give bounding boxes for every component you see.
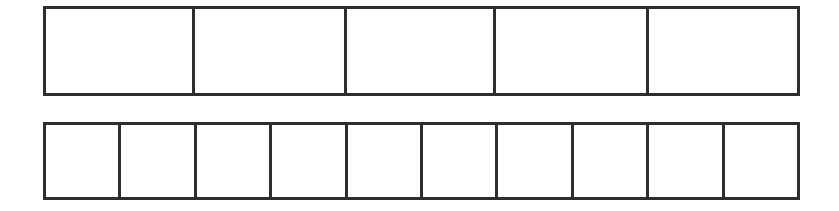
strip-bottom-cell-1[interactable] — [46, 125, 121, 197]
fraction-strip-bottom — [43, 122, 800, 200]
figure-canvas — [0, 0, 839, 211]
strip-bottom-cell-2[interactable] — [121, 125, 196, 197]
strip-bottom-cell-5[interactable] — [348, 125, 423, 197]
strip-bottom-cell-10[interactable] — [725, 125, 797, 197]
strip-top-cell-1[interactable] — [46, 9, 195, 93]
fraction-strip-top — [43, 6, 800, 96]
strip-top-cell-4[interactable] — [496, 9, 648, 93]
strip-top-cell-3[interactable] — [347, 9, 496, 93]
strip-bottom-cell-6[interactable] — [423, 125, 498, 197]
strip-bottom-cell-8[interactable] — [574, 125, 649, 197]
strip-bottom-cell-9[interactable] — [649, 125, 724, 197]
strip-top-cell-5[interactable] — [649, 9, 797, 93]
strip-top-cell-2[interactable] — [195, 9, 346, 93]
strip-bottom-cell-7[interactable] — [498, 125, 573, 197]
strip-bottom-cell-4[interactable] — [272, 125, 347, 197]
strip-bottom-cell-3[interactable] — [197, 125, 272, 197]
